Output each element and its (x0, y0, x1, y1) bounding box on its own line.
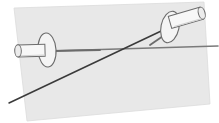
pin-left-cylinder-shade (21, 55, 45, 56)
figure-canvas (0, 0, 219, 123)
pin-left-cap (15, 45, 22, 57)
pin-left-tip (52, 50, 100, 51)
geometry-figure (0, 0, 219, 123)
